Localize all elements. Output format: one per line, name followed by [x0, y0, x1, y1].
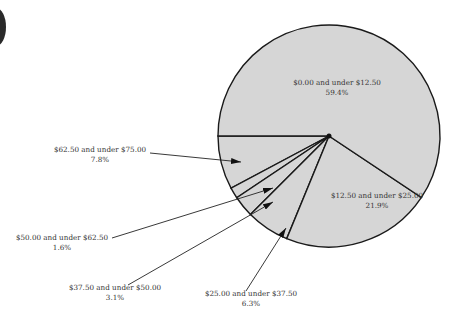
- slice-label: $37.50 and under $50.00: [69, 283, 162, 292]
- slice-percent: 59.4%: [326, 88, 349, 97]
- leader-arrow: [128, 202, 273, 285]
- leader-arrow: [246, 228, 286, 291]
- slice-percent: 6.3%: [242, 299, 260, 308]
- slice-label: $25.00 and under $37.50: [205, 289, 298, 298]
- slice-label: $12.50 and under $25.00: [331, 191, 424, 200]
- slice-percent: 7.8%: [91, 155, 109, 164]
- slice-percent: 21.9%: [366, 201, 389, 210]
- slice-percent: 3.1%: [106, 293, 124, 302]
- slice-label: $50.00 and under $62.50: [16, 233, 109, 242]
- slice-label: $0.00 and under $12.50: [293, 78, 381, 87]
- pie-chart: $62.50 and under $75.007.8%$50.00 and un…: [0, 0, 460, 326]
- slice-label: $62.50 and under $75.00: [54, 145, 147, 154]
- slice-percent: 1.6%: [53, 243, 71, 252]
- pie-center-dot: [327, 134, 332, 139]
